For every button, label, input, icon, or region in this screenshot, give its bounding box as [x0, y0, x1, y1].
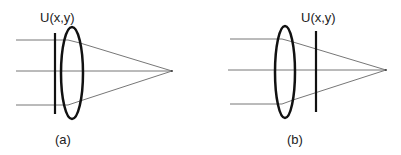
- ray-bottom-a: [16, 71, 172, 105]
- ray-bottom-b: [230, 70, 386, 104]
- rays-b: [228, 39, 386, 104]
- field-label-a: U(x,y): [40, 10, 75, 25]
- panel-a: U(x,y) (a): [16, 10, 173, 147]
- panel-b: U(x,y) (b): [228, 10, 387, 147]
- focal-point-a: [171, 70, 173, 72]
- ray-top-a: [16, 40, 172, 71]
- field-label-b: U(x,y): [301, 10, 336, 25]
- ray-top-b: [230, 39, 386, 70]
- rays-a: [16, 40, 172, 105]
- focal-point-b: [385, 69, 387, 71]
- caption-b: (b): [287, 132, 303, 147]
- caption-a: (a): [55, 132, 71, 147]
- lens-diagram: U(x,y) (a) U(x,y) (b): [0, 0, 401, 155]
